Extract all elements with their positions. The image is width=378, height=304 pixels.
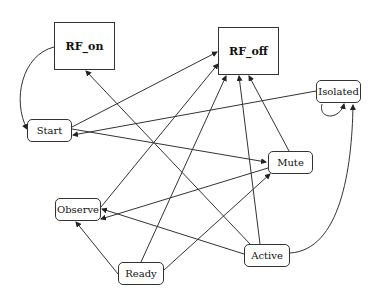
edge-active-rfon xyxy=(86,71,250,244)
node-start: Start xyxy=(27,119,72,142)
node-label: Isolated xyxy=(318,86,359,97)
node-label: Mute xyxy=(277,157,304,168)
node-rf-off: RF_off xyxy=(218,27,279,75)
node-observe: Observe xyxy=(55,198,101,221)
node-active: Active xyxy=(244,244,290,267)
edge-rfon-start xyxy=(20,47,54,129)
edge-mute-rfoff xyxy=(249,76,289,151)
edge-active-isolated xyxy=(290,105,353,253)
node-label: Observe xyxy=(57,204,99,215)
node-label: RF_off xyxy=(229,45,268,58)
edge-isolated-start xyxy=(73,91,316,135)
node-label: Active xyxy=(251,250,283,261)
node-mute: Mute xyxy=(268,151,313,174)
node-label: RF_on xyxy=(66,40,104,53)
edge-ready-observe xyxy=(76,222,118,274)
state-diagram: RF_on RF_off Isolated Start Mute Observe… xyxy=(0,0,378,304)
edge-observe-rfoff xyxy=(101,64,218,207)
node-rf-on: RF_on xyxy=(54,22,115,70)
edge-ready-rfoff xyxy=(141,76,226,262)
node-ready: Ready xyxy=(118,262,164,285)
edge-start-mute xyxy=(72,129,266,162)
node-label: Ready xyxy=(125,268,156,279)
edge-isolated-self xyxy=(322,104,344,116)
node-isolated: Isolated xyxy=(316,80,361,103)
node-label: Start xyxy=(37,125,63,136)
